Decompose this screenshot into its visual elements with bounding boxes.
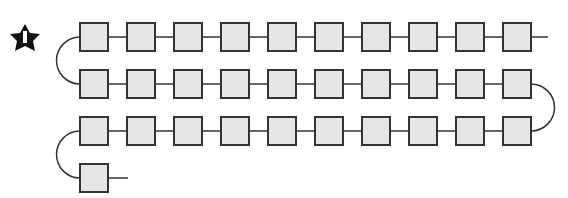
board-square bbox=[80, 23, 108, 51]
star-badge bbox=[10, 24, 40, 51]
board-square bbox=[80, 70, 108, 98]
board-square bbox=[503, 70, 531, 98]
board-square bbox=[456, 23, 484, 51]
board-square bbox=[362, 70, 390, 98]
board-square bbox=[315, 117, 343, 145]
board-square bbox=[456, 117, 484, 145]
board-squares bbox=[80, 23, 531, 192]
board-square bbox=[174, 117, 202, 145]
board-square bbox=[456, 70, 484, 98]
board-square bbox=[221, 23, 249, 51]
board-square bbox=[268, 70, 296, 98]
board-square bbox=[315, 70, 343, 98]
board-square bbox=[127, 23, 155, 51]
board-square bbox=[362, 117, 390, 145]
board-square bbox=[362, 23, 390, 51]
board-path-diagram bbox=[0, 0, 568, 198]
connector-lines bbox=[57, 37, 555, 178]
board-square bbox=[268, 117, 296, 145]
board-square bbox=[80, 164, 108, 192]
board-square bbox=[315, 23, 343, 51]
board-square bbox=[174, 23, 202, 51]
board-square bbox=[174, 70, 202, 98]
board-square bbox=[127, 117, 155, 145]
board-square bbox=[221, 70, 249, 98]
board-square bbox=[80, 117, 108, 145]
board-square bbox=[221, 117, 249, 145]
board-square bbox=[409, 117, 437, 145]
board-square bbox=[409, 70, 437, 98]
board-square bbox=[503, 23, 531, 51]
board-square bbox=[503, 117, 531, 145]
board-square bbox=[409, 23, 437, 51]
board-square bbox=[268, 23, 296, 51]
board-square bbox=[127, 70, 155, 98]
